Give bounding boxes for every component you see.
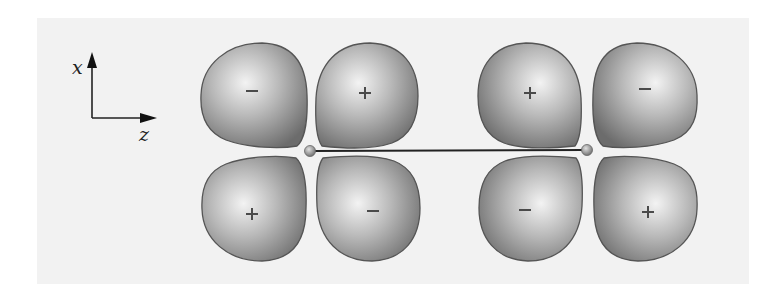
orbital-lobe-bottom-1 (202, 156, 306, 261)
x-axis-label: x (72, 56, 83, 78)
orbital-lobe-top-1 (201, 43, 307, 148)
orbital-lobe-bottom-4 (594, 156, 697, 261)
orbital-diagram: x z −++−+−−+ (0, 0, 778, 290)
internuclear-axis-line (312, 150, 585, 151)
orbital-lobe-top-2 (316, 43, 418, 148)
right-nucleus (582, 145, 593, 156)
z-axis-label: z (138, 123, 150, 145)
left-nucleus (305, 146, 316, 157)
orbital-lobe-bottom-3 (479, 156, 582, 261)
orbital-lobe-bottom-2 (317, 156, 420, 261)
